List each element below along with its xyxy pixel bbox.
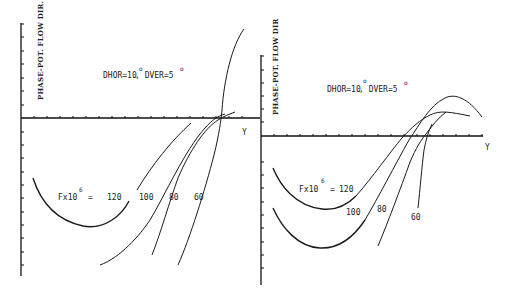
left-curve-80 (152, 112, 235, 255)
right-label-120: 120 (339, 185, 354, 194)
svg-text:Fx10: Fx10 (299, 185, 318, 194)
svg-text:6: 6 (79, 186, 83, 193)
right-annotation: DHOR=10 o , DVER=5 o (327, 77, 408, 94)
right-label-60: 60 (411, 213, 421, 222)
right-label-80: 80 (377, 205, 387, 214)
chart-canvas: PHASE-POT. FLOW DIR. Y DHOR=10 o , DVER=… (0, 0, 515, 288)
svg-text:o: o (404, 79, 408, 86)
left-label-120: 120 (107, 193, 122, 202)
right-label-100: 100 (346, 208, 361, 217)
left-label-60: 60 (194, 193, 204, 202)
svg-text:DHOR=10: DHOR=10 (327, 85, 361, 94)
right-y-axis-label: PHASE-POT. FLOW DIR (271, 18, 280, 115)
svg-text:6: 6 (321, 177, 325, 184)
left-panel: PHASE-POT. FLOW DIR. Y DHOR=10 o , DVER=… (21, 1, 260, 276)
svg-text:=: = (88, 193, 93, 202)
right-curve-120-upper (356, 112, 470, 196)
svg-text:=: = (330, 185, 335, 194)
svg-text:o: o (180, 65, 184, 72)
left-curve-100 (100, 114, 225, 265)
svg-text:, DVER=5: , DVER=5 (135, 71, 174, 80)
left-x-axis-label: Y (242, 128, 247, 137)
svg-text:o: o (363, 77, 367, 84)
left-y-axis-label: PHASE-POT. FLOW DIR. (36, 1, 45, 100)
left-series-labels: Fx10 6 = 120 100 80 60 (58, 186, 204, 202)
left-curve-60 (178, 29, 244, 265)
svg-text:, DVER=5: , DVER=5 (359, 85, 398, 94)
svg-text:Fx10: Fx10 (58, 193, 77, 202)
right-x-axis-label: Y (485, 143, 490, 152)
right-panel: PHASE-POT. FLOW DIR Y DHOR=10 o , DVER=5… (261, 18, 490, 285)
svg-text:DHOR=10: DHOR=10 (103, 71, 137, 80)
left-annotation: DHOR=10 o , DVER=5 o (103, 65, 184, 80)
left-label-100: 100 (139, 193, 154, 202)
left-curve-120-upper (137, 123, 191, 190)
left-label-80: 80 (169, 193, 179, 202)
